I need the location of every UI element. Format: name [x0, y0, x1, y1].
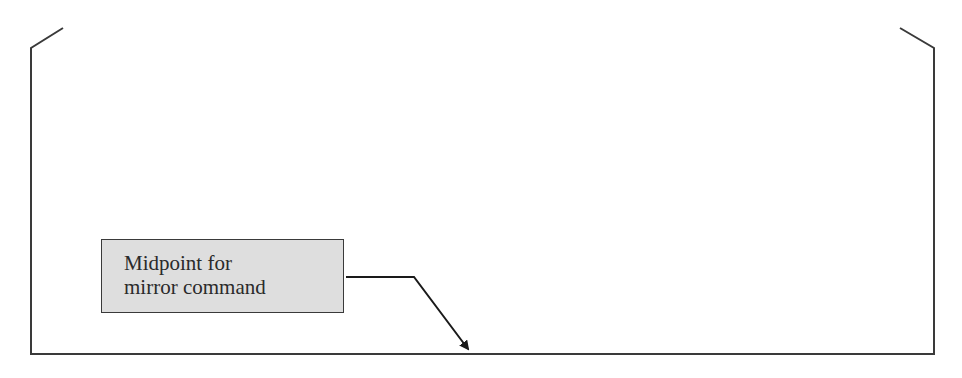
callout-box: Midpoint for mirror command — [101, 239, 344, 313]
diagram-canvas — [0, 0, 962, 378]
leader-line-arrow — [346, 277, 468, 349]
callout-line-2: mirror command — [124, 275, 343, 299]
callout-line-1: Midpoint for — [124, 251, 343, 275]
